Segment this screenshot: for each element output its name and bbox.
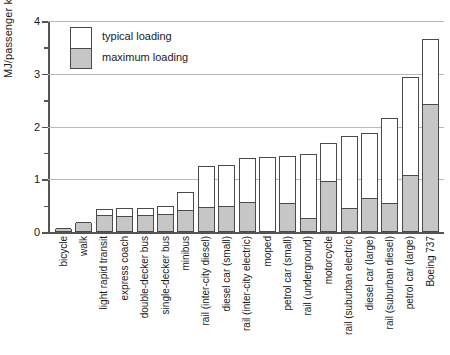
x-tick-label: rail (underground)	[301, 236, 315, 316]
x-tick-label: motorcycle	[322, 236, 336, 284]
bar	[279, 156, 296, 232]
bar-maximum-loading-segment	[403, 175, 418, 231]
y-tick-major-0	[42, 232, 48, 234]
bar-maximum-loading-segment	[321, 181, 336, 231]
bar	[218, 165, 235, 232]
bar	[239, 158, 256, 232]
x-tick-label: Boeing 737	[424, 236, 438, 287]
x-tick-label: light rapid transit	[97, 236, 111, 309]
bar-maximum-loading-segment	[56, 228, 71, 231]
bar-maximum-loading-segment	[362, 198, 377, 231]
x-tick-label: petrol car (small)	[281, 236, 295, 310]
x-axis-line	[48, 232, 444, 234]
x-tick-label: petrol car (large)	[403, 236, 417, 309]
y-tick-label-3: 3	[34, 68, 40, 80]
y-tick-major-4	[42, 21, 48, 23]
x-tick-label: rail (inter-city electric)	[240, 236, 254, 331]
y-tick-label-4: 4	[34, 15, 40, 27]
bar	[402, 77, 419, 232]
bar	[157, 206, 174, 232]
x-tick-label: bicycle	[57, 236, 71, 267]
bar-maximum-loading-segment	[382, 203, 397, 231]
bar-maximum-loading-segment	[342, 208, 357, 231]
bar-maximum-loading-segment	[280, 203, 295, 231]
bar-maximum-loading-segment	[117, 216, 132, 231]
bar	[341, 136, 358, 232]
y-tick-major-2	[42, 127, 48, 129]
y-tick-minor-1.5	[44, 153, 48, 155]
bar-maximum-loading-segment	[76, 222, 91, 231]
bar-maximum-loading-segment	[423, 104, 438, 231]
y-tick-label-2: 2	[34, 121, 40, 133]
y-tick-label-0: 0	[34, 226, 40, 238]
x-tick-label: rail (suburban electric)	[342, 236, 356, 335]
y-tick-minor-3.5	[44, 47, 48, 49]
bar	[96, 209, 113, 232]
x-tick-label: moped	[261, 236, 275, 267]
x-tick-label: diesel car (large)	[363, 236, 377, 310]
y-tick-label-1: 1	[34, 173, 40, 185]
x-tick-label: minibus	[179, 236, 193, 270]
bar	[320, 143, 337, 232]
y-axis-title: MJ/passenger km	[2, 0, 20, 78]
y-tick-minor-2.5	[44, 100, 48, 102]
bar	[422, 39, 439, 232]
x-tick-label: rail (inter-city diesel)	[199, 236, 213, 325]
bar	[55, 229, 72, 232]
bar	[75, 223, 92, 232]
legend-label-maximum-loading: maximum loading	[102, 51, 188, 63]
bar	[300, 154, 317, 232]
bar-maximum-loading-segment	[138, 215, 153, 231]
bar	[381, 118, 398, 232]
x-tick-label: rail (suburban diesel)	[383, 236, 397, 329]
y-tick-minor-0.5	[44, 206, 48, 208]
bar	[177, 192, 194, 232]
bar	[137, 208, 154, 232]
legend-swatch-maximum-loading	[70, 48, 92, 69]
chart-legend: typical loading maximum loading	[70, 27, 230, 73]
energy-intensity-bar-chart: MJ/passenger km 01234 bicyclewalklight r…	[0, 0, 450, 355]
x-tick-label: diesel car (small)	[220, 236, 234, 312]
bar-maximum-loading-segment	[97, 215, 112, 231]
bar-maximum-loading-segment	[240, 202, 255, 231]
bar	[198, 166, 215, 232]
bar	[361, 133, 378, 232]
legend-swatch-typical-loading	[70, 27, 92, 48]
bar	[116, 208, 133, 232]
bar-maximum-loading-segment	[219, 206, 234, 231]
bar-maximum-loading-segment	[301, 218, 316, 231]
x-tick-label: express coach	[118, 236, 132, 300]
bar-maximum-loading-segment	[158, 214, 173, 231]
gridline-4	[48, 21, 444, 22]
gridline-3	[48, 74, 444, 75]
bar	[259, 157, 276, 232]
bar-maximum-loading-segment	[178, 210, 193, 231]
y-tick-major-3	[42, 74, 48, 76]
bar-maximum-loading-segment	[199, 207, 214, 231]
x-tick-label: walk	[77, 236, 91, 256]
legend-label-typical-loading: typical loading	[102, 30, 172, 42]
y-tick-major-1	[42, 179, 48, 181]
x-tick-label: single-decker bus	[159, 236, 173, 314]
x-tick-label: double-decker bus	[138, 236, 152, 318]
